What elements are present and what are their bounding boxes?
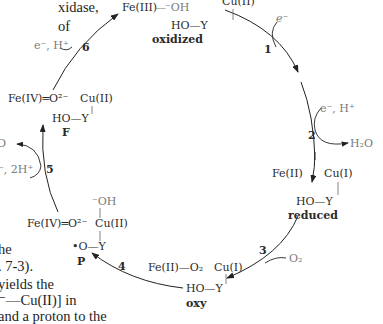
step-6-input: e⁻, H⁺ <box>34 40 69 52</box>
step-1-number: 1 <box>264 44 272 56</box>
step-5-input: ⁻, 2H⁺ <box>0 164 33 176</box>
arrow-step-2-output <box>315 130 348 144</box>
F-cu: Cu(II) <box>80 93 113 105</box>
oxidized-tyr: HO—Y <box>171 20 208 32</box>
step-1-input: e⁻ <box>276 13 288 25</box>
step-3-number: 3 <box>259 245 267 257</box>
reduced-label: reduced <box>288 210 338 222</box>
step-2-number: 2 <box>308 130 316 142</box>
reduced-cu: Cu(I) <box>324 168 352 180</box>
arrow-step-3-input <box>265 258 286 263</box>
paragraph-fragment: xidase, <box>58 0 99 15</box>
step-2-input: e⁻, H⁺ <box>320 103 355 115</box>
P-tyr: •O—Y <box>72 241 106 253</box>
step-5-number: 5 <box>46 164 54 176</box>
oxidized-label: oxidized <box>152 34 203 46</box>
P-fe: Fe(IV)═O²⁻ <box>27 218 87 230</box>
paragraph-fragment: yields the <box>0 276 54 292</box>
oxy-tyr: HO—Y <box>186 283 223 295</box>
step-5-output: O <box>0 138 6 150</box>
oxidized-fe: Fe(III) <box>122 2 157 14</box>
P-label: P <box>77 256 85 268</box>
paragraph-fragment: of <box>58 18 70 34</box>
arrow-step-2 <box>301 82 315 160</box>
oxidized-cu: Cu(II) <box>222 0 255 8</box>
arrow-step-1-input <box>272 22 277 47</box>
oxy-cu: Cu(I) <box>214 262 242 274</box>
F-tyr: HO—Y <box>52 113 89 125</box>
F-fe: Fe(IV)═O²⁻ <box>8 93 68 105</box>
reduced-tyr: HO—Y <box>296 196 333 208</box>
step-3-input: O₂ <box>289 253 302 265</box>
step-4-number: 4 <box>118 261 126 273</box>
step-2-output: H₂O <box>350 138 373 150</box>
step-6-number: 6 <box>82 42 90 54</box>
P-cu: Cu(II) <box>95 218 128 230</box>
oxy-fe: Fe(II)—O₂ <box>148 262 203 274</box>
paragraph-fragment: ⁻—Cu(II)] in <box>0 292 76 308</box>
F-label: F <box>62 127 70 139</box>
oxidized-ligand: ⁻OH <box>165 2 189 14</box>
oxy-label: oxy <box>186 298 206 310</box>
paragraph-fragment: he <box>0 241 12 257</box>
reduced-fe: Fe(II) <box>272 168 303 180</box>
arrow-into-reduced <box>312 152 315 182</box>
paragraph-fragment: . 7-3). <box>0 258 33 274</box>
paragraph-fragment: and a proton to the <box>0 308 107 324</box>
P-cu-ligand: ⁻OH <box>92 196 116 208</box>
